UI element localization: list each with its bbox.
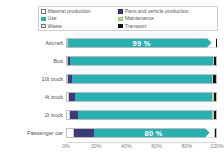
x-tick-label: 80%: [181, 143, 192, 149]
legend-item-label: Parts and vehicle production: [125, 8, 189, 15]
bar-segment-material-production[interactable]: [67, 129, 74, 137]
bar-segment-parts-and-vehicle-production[interactable]: [70, 111, 78, 119]
bar-segment-transport[interactable]: [214, 111, 216, 119]
callout-chevron-icon: [205, 128, 214, 138]
bar-row: Passenger car80 %: [66, 128, 217, 138]
bar-segment-transport[interactable]: [215, 129, 216, 137]
stacked-bar[interactable]: [66, 128, 217, 138]
category-label-passenger-car: Passenger car: [27, 130, 63, 136]
legend-item-use[interactable]: Use: [41, 15, 118, 22]
legend-item-label: Use: [48, 15, 57, 22]
stacked-bar[interactable]: [66, 110, 217, 120]
stacked-bar[interactable]: [66, 74, 217, 84]
x-tick-label: 60%: [151, 143, 162, 149]
legend-swatch-icon: [118, 9, 123, 14]
legend-item-label: Waste: [48, 23, 62, 30]
plot-area: Aircraft99 %Bus10t truck4t truck2t truck…: [66, 34, 217, 142]
stacked-bar[interactable]: [66, 56, 217, 66]
x-tick-label: 100%: [210, 143, 224, 149]
legend-item-label: Material production: [48, 8, 91, 15]
legend-item-label: Transport: [125, 23, 147, 30]
legend-swatch-icon: [41, 24, 46, 29]
legend-item-label: Maintenance: [125, 15, 154, 22]
x-tick-label: 40%: [121, 143, 132, 149]
legend-column-left: Material production Use Waste: [41, 8, 118, 30]
bar-segment-use[interactable]: [72, 75, 212, 83]
legend-swatch-icon: [41, 17, 46, 22]
x-tick-label: 20%: [91, 143, 102, 149]
legend-item-waste[interactable]: Waste: [41, 23, 118, 30]
legend-column-right: Parts and vehicle production Maintenance…: [118, 8, 217, 30]
legend-swatch-icon: [41, 9, 46, 14]
chart-figure: Material production Use Waste Parts and …: [0, 0, 224, 161]
legend-item-material-production[interactable]: Material production: [41, 8, 118, 15]
plot-background: [66, 34, 217, 142]
category-label-bus: Bus: [53, 58, 63, 64]
bar-segment-use[interactable]: [70, 57, 213, 65]
bar-segment-use[interactable]: [78, 111, 212, 119]
x-tick-label: 0%: [62, 143, 70, 149]
legend-swatch-icon: [118, 17, 123, 22]
stacked-bar[interactable]: [66, 38, 217, 48]
bar-segment-transport[interactable]: [214, 93, 216, 101]
bar-segment-use[interactable]: [75, 93, 212, 101]
bar-row: Bus: [66, 56, 217, 66]
category-label-10t-truck: 10t truck: [42, 76, 63, 82]
bar-segment-use[interactable]: [94, 129, 213, 137]
bar-row: 2t truck: [66, 110, 217, 120]
legend-item-maintenance[interactable]: Maintenance: [118, 15, 217, 22]
bar-row: Aircraft99 %: [66, 38, 217, 48]
bar-segment-use[interactable]: [68, 39, 214, 47]
bar-row: 10t truck: [66, 74, 217, 84]
x-axis: 0%20%40%60%80%100%: [66, 143, 217, 155]
legend-swatch-icon: [118, 24, 123, 29]
bar-row: 4t truck: [66, 92, 217, 102]
chart-legend: Material production Use Waste Parts and …: [38, 6, 218, 31]
bar-segment-transport[interactable]: [213, 75, 216, 83]
category-label-aircraft: Aircraft: [45, 40, 63, 46]
category-label-4t-truck: 4t truck: [45, 94, 63, 100]
bar-segment-transport[interactable]: [214, 57, 216, 65]
x-axis-line: [66, 142, 217, 143]
category-label-2t-truck: 2t truck: [45, 112, 63, 118]
stacked-bar[interactable]: [66, 92, 217, 102]
legend-item-transport[interactable]: Transport: [118, 23, 217, 30]
callout-chevron-icon: [207, 38, 216, 48]
legend-item-parts-and-vehicle-production[interactable]: Parts and vehicle production: [118, 8, 217, 15]
bar-segment-parts-and-vehicle-production[interactable]: [74, 129, 93, 137]
